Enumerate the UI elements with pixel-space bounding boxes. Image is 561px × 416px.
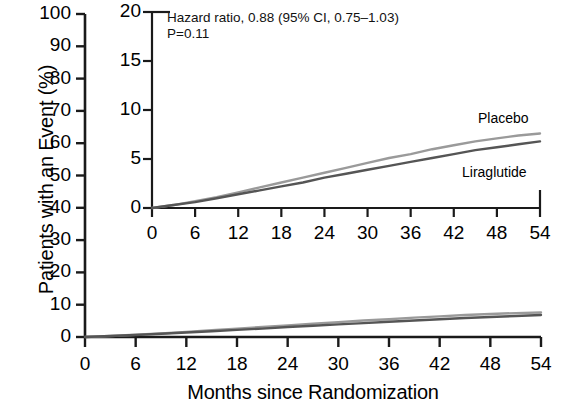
p-value-text: P=0.11 [167, 26, 399, 42]
kaplan-meier-figure: Patients with an Event (%) Months since … [0, 0, 561, 416]
inset-x-tick-42: 42 [437, 222, 471, 244]
inset-x-tick-18: 18 [264, 222, 298, 244]
inset-x-tick-48: 48 [480, 222, 514, 244]
inset-y-tick-15: 15 [95, 49, 141, 71]
main-x-tick-12: 12 [166, 353, 206, 375]
inset-y-tick-20: 20 [95, 0, 141, 22]
main-y-tick-80: 80 [19, 67, 71, 89]
main-x-tick-36: 36 [369, 353, 409, 375]
main-y-tick-60: 60 [19, 131, 71, 153]
inset-x-tick-24: 24 [307, 222, 341, 244]
main-y-tick-100: 100 [19, 2, 71, 24]
main-x-tick-48: 48 [470, 353, 510, 375]
main-x-tick-0: 0 [65, 353, 105, 375]
inset-y-tick-10: 10 [95, 98, 141, 120]
hazard-ratio-text: Hazard ratio, 0.88 (95% CI, 0.75–1.03) [167, 10, 399, 26]
inset-x-tick-36: 36 [394, 222, 428, 244]
main-y-tick-40: 40 [19, 196, 71, 218]
inset-statistics-annotation: Hazard ratio, 0.88 (95% CI, 0.75–1.03) P… [167, 10, 399, 42]
main-y-tick-70: 70 [19, 99, 71, 121]
inset-x-tick-30: 30 [351, 222, 385, 244]
inset-y-tick-0: 0 [95, 196, 141, 218]
main-x-tick-24: 24 [268, 353, 308, 375]
main-x-tick-30: 30 [318, 353, 358, 375]
main-y-tick-10: 10 [19, 293, 71, 315]
main-x-tick-54: 54 [521, 353, 561, 375]
curve-label-placebo: Placebo [478, 110, 529, 126]
main-x-tick-18: 18 [217, 353, 257, 375]
inset-y-tick-5: 5 [95, 147, 141, 169]
inset-x-tick-54: 54 [523, 222, 557, 244]
main-x-tick-42: 42 [420, 353, 460, 375]
inset-x-tick-12: 12 [221, 222, 255, 244]
main-x-tick-6: 6 [116, 353, 156, 375]
main-y-tick-50: 50 [19, 164, 71, 186]
main-y-tick-20: 20 [19, 260, 71, 282]
main-y-tick-90: 90 [19, 34, 71, 56]
inset-x-tick-0: 0 [135, 222, 169, 244]
main-curve-liraglutide [85, 315, 541, 337]
curve-label-liraglutide: Liraglutide [462, 164, 527, 180]
inset-x-tick-6: 6 [178, 222, 212, 244]
main-y-tick-0: 0 [19, 325, 71, 347]
main-curves [85, 312, 541, 337]
main-y-tick-30: 30 [19, 228, 71, 250]
